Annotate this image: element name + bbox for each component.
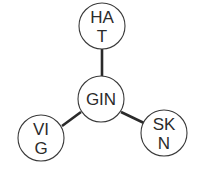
node-hat-label-line1: HA <box>90 8 114 27</box>
node-hat-label-line2: T <box>97 27 107 46</box>
node-vig-label-line2: G <box>34 139 47 158</box>
node-skn-label-line1: SK <box>153 115 176 134</box>
node-vig: VI G <box>18 115 64 161</box>
diagram-canvas: HA T GIN VI G SK N <box>0 0 204 170</box>
node-vig-label-line1: VI <box>33 120 49 139</box>
node-skn-label-line2: N <box>158 134 170 153</box>
node-gin: GIN <box>78 76 124 122</box>
node-hat: HA T <box>79 3 125 49</box>
edge-gin-vig <box>62 112 81 126</box>
node-gin-label: GIN <box>86 90 116 109</box>
edge-gin-skn <box>121 112 144 123</box>
node-skn: SK N <box>141 110 187 156</box>
